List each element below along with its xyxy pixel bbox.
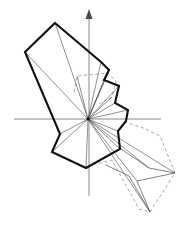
polygon-diagram-svg [0,0,184,226]
figure-container [0,0,184,226]
origin-point [86,117,89,120]
figure-background [0,0,184,226]
